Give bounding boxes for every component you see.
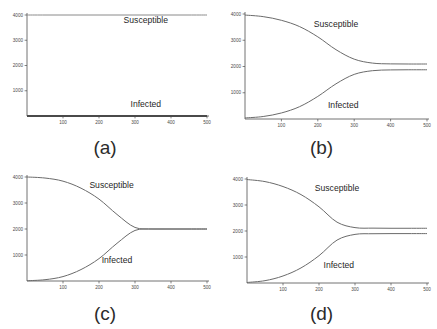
y-tick-label: 1000 bbox=[13, 88, 24, 93]
series-label-susceptible: Susceptible bbox=[315, 183, 360, 193]
x-tick-label: 500 bbox=[423, 287, 431, 292]
x-tick-label: 100 bbox=[59, 285, 67, 290]
y-tick-label: 1000 bbox=[13, 253, 24, 258]
curve-infected bbox=[247, 234, 427, 283]
x-tick-label: 400 bbox=[167, 285, 175, 290]
y-tick-label: 3000 bbox=[13, 201, 24, 206]
y-tick-label: 3000 bbox=[13, 38, 24, 43]
y-tick-label: 2000 bbox=[13, 227, 24, 232]
series-label-infected: Infected bbox=[328, 100, 359, 110]
panel-caption-a: (a) bbox=[0, 137, 214, 159]
series-label-infected: Infected bbox=[102, 255, 133, 265]
x-tick-label: 400 bbox=[387, 123, 395, 128]
x-tick-label: 200 bbox=[314, 123, 322, 128]
y-tick-label: 4000 bbox=[231, 12, 242, 17]
series-label-susceptible: Susceptible bbox=[89, 180, 134, 190]
x-tick-label: 100 bbox=[59, 120, 67, 125]
y-tick-label: 2000 bbox=[231, 64, 242, 69]
x-tick-label: 500 bbox=[423, 123, 431, 128]
x-tick-label: 300 bbox=[131, 285, 139, 290]
x-tick-label: 100 bbox=[278, 123, 286, 128]
x-tick-label: 300 bbox=[350, 123, 358, 128]
chart-panel-a: 1000200030004000100200300400500Susceptib… bbox=[0, 0, 218, 165]
series-label-infected: Infected bbox=[324, 260, 355, 270]
x-tick-label: 100 bbox=[279, 287, 287, 292]
chart-panel-c: 1000200030004000100200300400500Susceptib… bbox=[0, 165, 218, 329]
x-tick-label: 200 bbox=[95, 120, 103, 125]
y-tick-label: 4000 bbox=[233, 177, 244, 182]
y-tick-label: 4000 bbox=[13, 175, 24, 180]
chart-panel-d: 1000200030004000100200300400500Susceptib… bbox=[218, 165, 437, 329]
y-tick-label: 1000 bbox=[231, 90, 242, 95]
series-label-susceptible: Susceptible bbox=[124, 15, 169, 25]
y-tick-label: 1000 bbox=[233, 255, 244, 260]
panel-caption-c: (c) bbox=[0, 303, 214, 325]
chart-panel-b: 1000200030004000100200300400500Susceptib… bbox=[218, 0, 437, 165]
y-tick-label: 4000 bbox=[13, 13, 24, 18]
x-tick-label: 400 bbox=[167, 120, 175, 125]
y-tick-label: 3000 bbox=[233, 203, 244, 208]
y-tick-label: 3000 bbox=[231, 38, 242, 43]
series-label-infected: Infected bbox=[131, 99, 162, 109]
figure-panel-grid: 1000200030004000100200300400500Susceptib… bbox=[0, 0, 437, 329]
x-tick-label: 200 bbox=[95, 285, 103, 290]
panel-caption-d: (d) bbox=[212, 303, 431, 325]
series-label-susceptible: Susceptible bbox=[314, 19, 359, 29]
curve-infected bbox=[245, 70, 427, 118]
panel-caption-b: (b) bbox=[212, 137, 431, 159]
x-tick-label: 500 bbox=[203, 285, 211, 290]
x-tick-label: 500 bbox=[203, 120, 211, 125]
x-tick-label: 400 bbox=[387, 287, 395, 292]
x-tick-label: 200 bbox=[315, 287, 323, 292]
y-tick-label: 2000 bbox=[233, 229, 244, 234]
x-tick-label: 300 bbox=[131, 120, 139, 125]
y-tick-label: 2000 bbox=[13, 63, 24, 68]
x-tick-label: 300 bbox=[351, 287, 359, 292]
